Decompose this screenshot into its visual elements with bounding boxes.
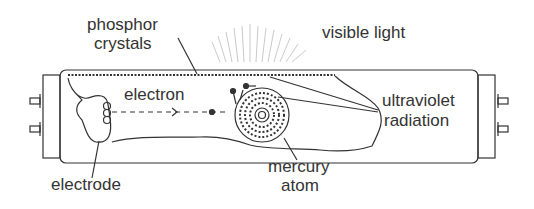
left-end-cap [43,75,60,158]
label-ultraviolet-line1: ultraviolet [382,92,455,110]
label-mercury-line2: atom [281,177,319,195]
right-end-cap [478,75,495,158]
label-visible-light: visible light [322,24,405,42]
label-electron: electron [124,86,184,104]
label-electrode: electrode [51,176,121,194]
uv-leader-top [270,77,378,110]
uv-leader-bottom [278,97,378,112]
electrode-leader [92,141,99,178]
fluorescent-lamp-diagram: phosphor crystals visible light electron… [0,0,534,209]
mercury-atom [231,84,290,143]
label-mercury-line1: mercury [268,158,329,176]
visible-light-rays [212,24,306,62]
label-ultraviolet-line2: radiation [384,112,449,130]
label-phosphor-line1: phosphor [87,16,158,34]
label-phosphor-line2: crystals [94,35,152,53]
phosphor-leader [178,38,197,74]
